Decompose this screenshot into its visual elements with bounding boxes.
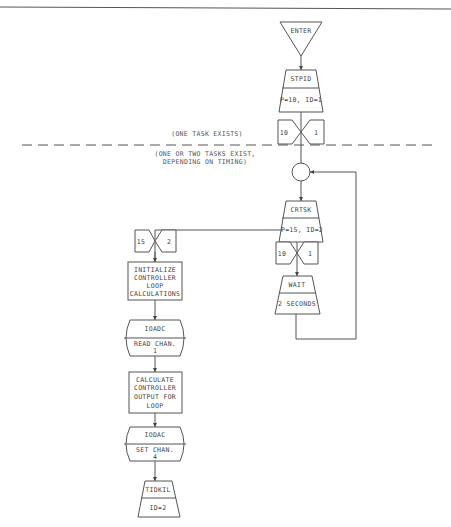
calculate-line: OUTPUT FOR: [134, 393, 176, 401]
tidkil-name: TIDKIL: [145, 486, 170, 494]
task-marker-priority: 10: [278, 250, 286, 258]
one-task-annotation: (ONE TASK EXISTS): [171, 130, 243, 138]
crtsk-block: CRTSK P=15, ID=2: [279, 201, 323, 242]
stpid-params: P=10, ID=1: [280, 96, 322, 104]
arrow-head: [295, 272, 299, 276]
wait-params: 2 SECONDS: [278, 300, 316, 308]
crtsk-name: CRTSK: [290, 206, 311, 214]
crtsk-params: P=15, ID=2: [281, 226, 323, 234]
calculate-line: CONTROLLER: [134, 384, 176, 392]
arrow-head: [153, 368, 157, 372]
ioadc-channel: 1: [153, 347, 157, 355]
two-tasks-annotation-line1: (ONE OR TWO TASKS EXIST,: [154, 150, 255, 158]
initialize-line: INITIALIZE: [134, 266, 176, 274]
flowchart-diagram: ENTER STPID P=10, ID=1 10 1 (ONE TASK EX…: [0, 0, 451, 527]
top-rule: [0, 7, 451, 9]
stpid-block: STPID P=10, ID=1: [279, 70, 323, 112]
task-marker-id: 2: [167, 238, 171, 246]
initialize-line: CALCULATIONS: [130, 290, 181, 298]
task-marker-id: 1: [314, 129, 318, 137]
enter-label: ENTER: [290, 27, 311, 35]
calculate-line: CALCULATE: [136, 376, 174, 384]
arrow-head: [299, 197, 303, 201]
tidkil-block: TIDKIL ID=2: [138, 481, 180, 517]
initialize-line: CONTROLLER: [134, 274, 176, 282]
task-marker-priority: 10: [280, 129, 288, 137]
arrow-head: [153, 477, 157, 481]
tidkil-params: ID=2: [150, 504, 167, 512]
iodac-channel: 4: [153, 453, 157, 461]
wait-block: WAIT 2 SECONDS: [275, 276, 320, 314]
arrow-head: [299, 66, 303, 70]
calculate-line: LOOP: [147, 402, 164, 410]
ioadc-block: IOADC READ CHAN. 1: [124, 320, 186, 356]
initialize-line: LOOP: [147, 282, 164, 290]
iodac-block: IODAC SET CHAN. 4: [124, 427, 186, 461]
two-tasks-annotation-line2: DEPENDING ON TIMING): [163, 158, 247, 166]
task-marker-priority: 15: [137, 238, 145, 246]
arrow-head: [310, 170, 314, 174]
loop-junction-circle: [292, 163, 310, 181]
arrow-head: [153, 258, 157, 262]
ioadc-name: IOADC: [144, 325, 165, 333]
initialize-block: INITIALIZE CONTROLLER LOOP CALCULATIONS: [128, 262, 182, 300]
enter-terminal: ENTER: [280, 22, 322, 56]
wait-name: WAIT: [289, 281, 306, 289]
stpid-name: STPID: [290, 75, 311, 83]
arrow-head: [153, 316, 157, 320]
iodac-name: IODAC: [144, 431, 165, 439]
arrow-head: [153, 423, 157, 427]
calculate-block: CALCULATE CONTROLLER OUTPUT FOR LOOP: [129, 372, 182, 413]
task-marker-id: 1: [308, 250, 312, 258]
